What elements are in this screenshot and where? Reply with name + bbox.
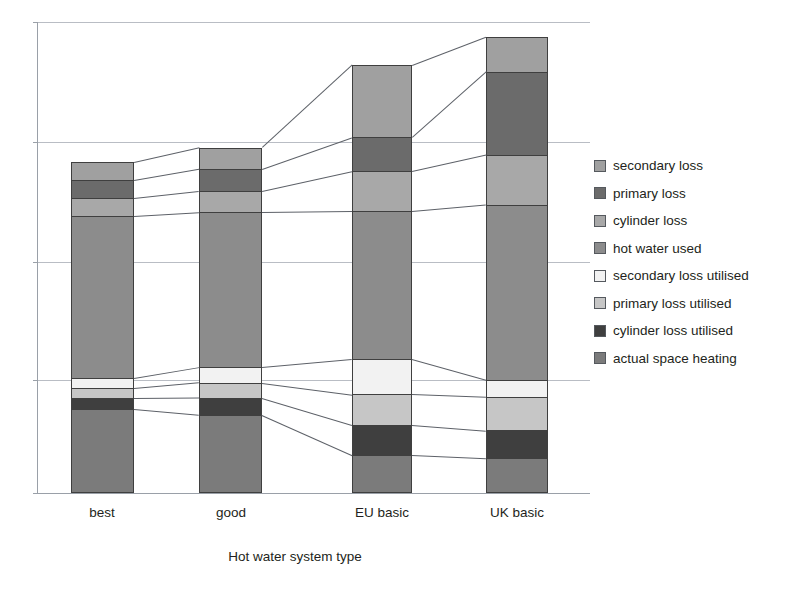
bar-segment-cylinder-loss[interactable] bbox=[486, 155, 548, 205]
bar-segment-cylinder-loss[interactable] bbox=[352, 171, 412, 211]
legend-swatch-icon bbox=[594, 187, 606, 199]
bar-segment-cylinder-loss-utilised[interactable] bbox=[71, 398, 134, 409]
legend-swatch-icon bbox=[594, 242, 606, 254]
bar-EU-basic[interactable] bbox=[352, 65, 412, 493]
legend-item-label: primary loss utilised bbox=[613, 296, 732, 311]
bar-segment-cylinder-loss-utilised[interactable] bbox=[199, 398, 262, 415]
bar-segment-actual-space-heating[interactable] bbox=[71, 409, 134, 493]
bar-segment-cylinder-loss[interactable] bbox=[71, 198, 134, 216]
bar-segment-actual-space-heating[interactable] bbox=[199, 415, 262, 493]
bar-segment-primary-loss[interactable] bbox=[352, 137, 412, 171]
bar-good[interactable] bbox=[199, 148, 262, 494]
bar-best[interactable] bbox=[71, 162, 134, 493]
legend-item[interactable]: secondary loss bbox=[594, 158, 804, 173]
y-axis-line bbox=[37, 22, 38, 493]
bar-segment-cylinder-loss-utilised[interactable] bbox=[486, 430, 548, 458]
legend-item[interactable]: cylinder loss utilised bbox=[594, 323, 804, 338]
x-tick-label-eu-basic: EU basic bbox=[322, 505, 442, 520]
legend-item-label: hot water used bbox=[613, 241, 702, 256]
bar-segment-cylinder-loss-utilised[interactable] bbox=[352, 425, 412, 455]
legend-item-label: primary loss bbox=[613, 186, 686, 201]
bar-segment-primary-loss-utilised[interactable] bbox=[199, 383, 262, 398]
bar-segment-secondary-loss[interactable] bbox=[199, 148, 262, 169]
legend-item[interactable]: secondary loss utilised bbox=[594, 268, 804, 283]
stacked-bar-chart: best good EU basic UK basic Hot water sy… bbox=[0, 0, 809, 595]
bar-segment-actual-space-heating[interactable] bbox=[486, 458, 548, 493]
legend-item[interactable]: primary loss bbox=[594, 186, 804, 201]
bar-segment-hot-water-used[interactable] bbox=[352, 211, 412, 359]
bar-segment-secondary-loss[interactable] bbox=[352, 65, 412, 137]
bar-segment-hot-water-used[interactable] bbox=[71, 216, 134, 378]
legend: secondary lossprimary losscylinder lossh… bbox=[594, 158, 804, 378]
legend-swatch-icon bbox=[594, 160, 606, 172]
legend-swatch-icon bbox=[594, 297, 606, 309]
bar-segment-primary-loss-utilised[interactable] bbox=[352, 394, 412, 424]
bar-segment-secondary-loss-utilised[interactable] bbox=[71, 378, 134, 388]
legend-item-label: cylinder loss bbox=[613, 213, 687, 228]
gridline bbox=[37, 22, 590, 23]
legend-item[interactable]: hot water used bbox=[594, 241, 804, 256]
legend-swatch-icon bbox=[594, 270, 606, 282]
legend-swatch-icon bbox=[594, 215, 606, 227]
bar-segment-actual-space-heating[interactable] bbox=[352, 455, 412, 493]
bar-segment-primary-loss-utilised[interactable] bbox=[486, 397, 548, 430]
bar-segment-primary-loss-utilised[interactable] bbox=[71, 388, 134, 398]
legend-item[interactable]: actual space heating bbox=[594, 351, 804, 366]
bar-segment-secondary-loss-utilised[interactable] bbox=[199, 367, 262, 382]
bar-segment-primary-loss[interactable] bbox=[486, 72, 548, 155]
bar-UK-basic[interactable] bbox=[486, 37, 548, 493]
x-tick-label-good: good bbox=[171, 505, 291, 520]
legend-item-label: cylinder loss utilised bbox=[613, 323, 733, 338]
legend-item-label: actual space heating bbox=[613, 351, 737, 366]
bar-segment-hot-water-used[interactable] bbox=[199, 212, 262, 367]
legend-item[interactable]: primary loss utilised bbox=[594, 296, 804, 311]
legend-swatch-icon bbox=[594, 325, 606, 337]
legend-swatch-icon bbox=[594, 352, 606, 364]
legend-item-label: secondary loss bbox=[613, 158, 703, 173]
bar-segment-secondary-loss[interactable] bbox=[486, 37, 548, 72]
legend-item-label: secondary loss utilised bbox=[613, 268, 749, 283]
bar-segment-secondary-loss[interactable] bbox=[71, 162, 134, 180]
x-axis-title: Hot water system type bbox=[0, 549, 590, 564]
x-tick-label-best: best bbox=[42, 505, 162, 520]
bar-segment-primary-loss[interactable] bbox=[71, 180, 134, 198]
bar-segment-hot-water-used[interactable] bbox=[486, 205, 548, 381]
bar-segment-secondary-loss-utilised[interactable] bbox=[352, 359, 412, 394]
bar-segment-cylinder-loss[interactable] bbox=[199, 191, 262, 212]
legend-item[interactable]: cylinder loss bbox=[594, 213, 804, 228]
bar-segment-primary-loss[interactable] bbox=[199, 169, 262, 191]
x-axis-line bbox=[37, 493, 590, 494]
x-tick-label-uk-basic: UK basic bbox=[457, 505, 577, 520]
bar-segment-secondary-loss-utilised[interactable] bbox=[486, 380, 548, 397]
